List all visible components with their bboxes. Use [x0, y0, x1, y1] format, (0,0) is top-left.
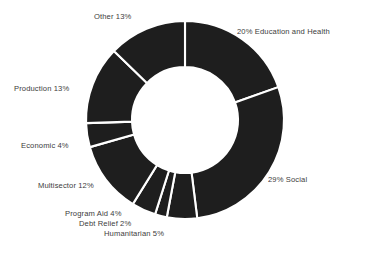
- donut-slice: [192, 87, 284, 218]
- slice-label-economic: Economic 4%: [21, 141, 69, 150]
- slice-label-education-and-health: 20% Education and Health: [237, 27, 330, 36]
- slice-label-social: 29% Social: [268, 175, 307, 184]
- donut-chart-figure: 20% Education and Health 29% Social Othe…: [0, 0, 377, 256]
- donut-chart-svg: [0, 0, 377, 256]
- donut-slice-group: [86, 21, 284, 219]
- slice-label-humanitarian: Humanitarian 5%: [104, 229, 164, 238]
- slice-label-other: Other 13%: [94, 12, 131, 21]
- slice-label-multisector: Multisector 12%: [38, 181, 94, 190]
- slice-label-production: Production 13%: [14, 84, 69, 93]
- slice-label-program-aid: Program Aid 4%: [65, 209, 122, 218]
- slice-label-debt-relief: Debt Relief 2%: [79, 219, 131, 228]
